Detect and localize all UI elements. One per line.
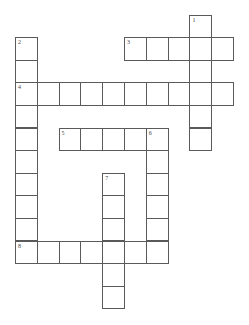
crossword-cell[interactable] [189,82,212,106]
clue-number: 1 [192,17,195,23]
clue-number: 6 [149,130,152,136]
crossword-cell[interactable] [15,173,38,197]
crossword-cell[interactable] [124,82,147,106]
crossword-cell[interactable]: 6 [146,128,169,152]
crossword-cell[interactable] [102,128,125,152]
crossword-cell[interactable] [211,82,234,106]
crossword-cell[interactable] [15,105,38,129]
crossword-cell[interactable]: 2 [15,37,38,61]
clue-number: 3 [127,39,130,45]
crossword-cell[interactable] [102,241,125,265]
crossword-cell[interactable] [189,60,212,84]
clue-number: 4 [18,84,21,90]
crossword-cell[interactable] [146,195,169,219]
crossword-cell[interactable]: 3 [124,37,147,61]
crossword-cell[interactable] [59,82,82,106]
crossword-cell[interactable] [102,218,125,242]
crossword-grid: 12483567 [0,0,249,325]
clue-number: 7 [105,175,108,181]
crossword-cell[interactable] [211,37,234,61]
crossword-cell[interactable] [80,82,103,106]
crossword-cell[interactable] [146,173,169,197]
crossword-cell[interactable] [146,150,169,174]
crossword-cell[interactable]: 7 [102,173,125,197]
crossword-cell[interactable] [146,241,169,265]
crossword-cell[interactable] [189,128,212,152]
crossword-cell[interactable] [37,241,60,265]
crossword-cell[interactable] [15,150,38,174]
crossword-cell[interactable] [15,195,38,219]
crossword-cell[interactable] [102,82,125,106]
crossword-cell[interactable] [15,60,38,84]
crossword-cell[interactable] [15,218,38,242]
crossword-cell[interactable] [146,218,169,242]
crossword-cell[interactable] [80,241,103,265]
crossword-cell[interactable] [80,128,103,152]
clue-number: 8 [18,243,21,249]
clue-number: 2 [18,39,21,45]
crossword-cell[interactable]: 5 [59,128,82,152]
crossword-cell[interactable]: 4 [15,82,38,106]
crossword-cell[interactable] [189,105,212,129]
crossword-cell[interactable]: 8 [15,241,38,265]
crossword-cell[interactable] [168,82,191,106]
crossword-cell[interactable] [102,286,125,310]
clue-number: 5 [62,130,65,136]
crossword-cell[interactable] [124,128,147,152]
crossword-cell[interactable]: 1 [189,15,212,39]
crossword-cell[interactable] [189,37,212,61]
crossword-cell[interactable] [102,263,125,287]
crossword-cell[interactable] [124,241,147,265]
crossword-cell[interactable] [102,195,125,219]
crossword-cell[interactable] [168,37,191,61]
crossword-cell[interactable] [15,128,38,152]
crossword-cell[interactable] [146,37,169,61]
crossword-cell[interactable] [59,241,82,265]
crossword-cell[interactable] [37,82,60,106]
crossword-cell[interactable] [146,82,169,106]
